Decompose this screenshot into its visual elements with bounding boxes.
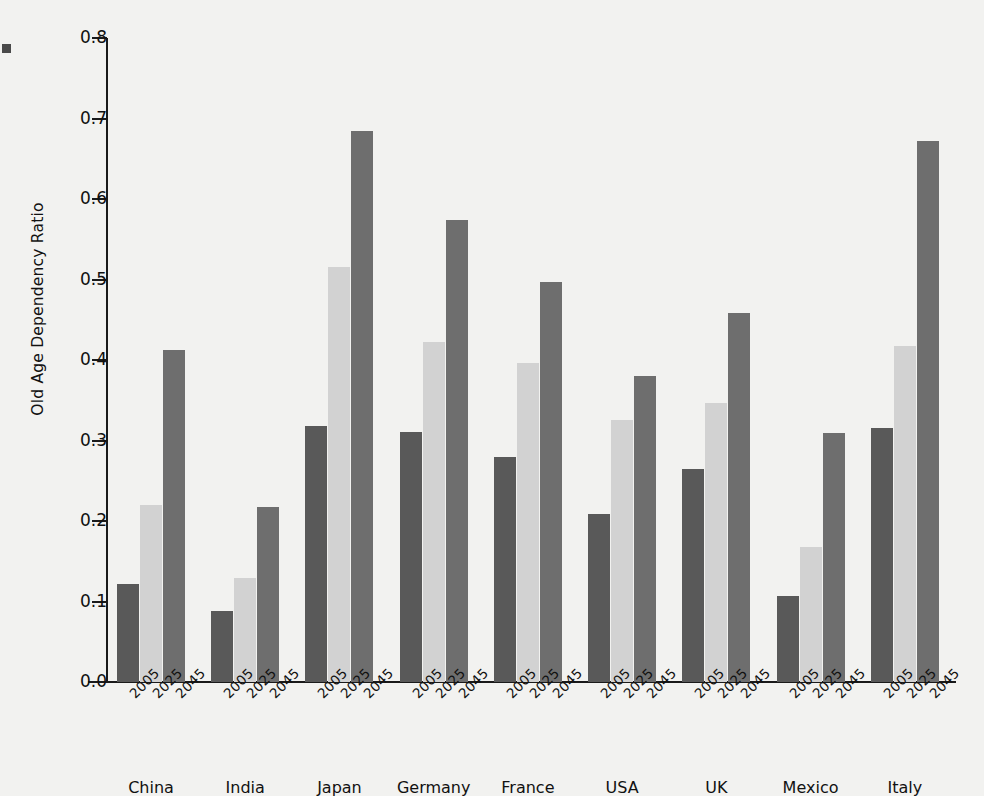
bar bbox=[611, 420, 633, 682]
page-edge-marker bbox=[2, 44, 11, 53]
y-tick-label: 0.0 bbox=[61, 673, 107, 690]
x-axis-category-label: China bbox=[128, 778, 174, 796]
bar bbox=[588, 514, 610, 682]
y-tick-label: 0.7 bbox=[61, 110, 107, 127]
x-axis-category-label: USA bbox=[606, 778, 639, 796]
x-axis-category-label: Germany bbox=[397, 778, 471, 796]
y-tick-label: 0.4 bbox=[61, 351, 107, 368]
bar bbox=[705, 403, 727, 682]
plot-area bbox=[108, 38, 956, 682]
x-axis-category-label: Japan bbox=[317, 778, 362, 796]
x-axis-category-label: UK bbox=[705, 778, 727, 796]
bar bbox=[211, 611, 233, 682]
x-axis-labels: 200520252045China200520252045India200520… bbox=[108, 690, 956, 796]
bar bbox=[823, 433, 845, 682]
y-tick-label: 0.3 bbox=[61, 432, 107, 449]
bar bbox=[328, 267, 350, 682]
bar bbox=[917, 141, 939, 682]
bar bbox=[257, 507, 279, 682]
bar bbox=[540, 282, 562, 682]
x-axis-category-label: France bbox=[501, 778, 554, 796]
y-tick-label: 0.6 bbox=[61, 190, 107, 207]
bar bbox=[400, 432, 422, 682]
x-axis-category-label: Italy bbox=[887, 778, 922, 796]
bar bbox=[871, 428, 893, 682]
bar bbox=[728, 313, 750, 682]
bars-layer bbox=[108, 38, 956, 682]
y-tick-label: 0.8 bbox=[61, 29, 107, 46]
y-tick-label: 0.1 bbox=[61, 593, 107, 610]
bar bbox=[894, 346, 916, 682]
bar bbox=[800, 547, 822, 682]
bar bbox=[682, 469, 704, 682]
y-axis-title: Old Age Dependency Ratio bbox=[29, 199, 47, 419]
chart-figure: Old Age Dependency Ratio 0.00.10.20.30.4… bbox=[0, 0, 984, 796]
bar bbox=[351, 131, 373, 682]
bar bbox=[517, 363, 539, 682]
bar bbox=[494, 457, 516, 682]
x-axis-category-label: India bbox=[226, 778, 265, 796]
bar bbox=[163, 350, 185, 682]
bar bbox=[140, 505, 162, 682]
y-tick-label: 0.2 bbox=[61, 512, 107, 529]
bar bbox=[423, 342, 445, 683]
y-tick-label: 0.5 bbox=[61, 271, 107, 288]
bar bbox=[117, 584, 139, 682]
bar bbox=[634, 376, 656, 682]
bar bbox=[446, 220, 468, 682]
bar bbox=[777, 596, 799, 682]
x-axis-category-label: Mexico bbox=[783, 778, 839, 796]
bar bbox=[305, 426, 327, 682]
